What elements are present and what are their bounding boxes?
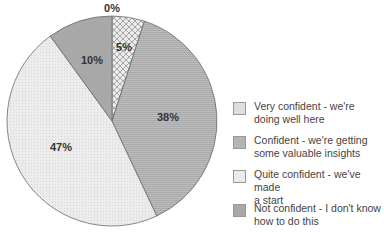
label-confident: 38%: [157, 111, 179, 123]
label-very-confident: 5%: [116, 41, 132, 53]
legend-item-quite-confident: Quite confident - we've madea start: [233, 168, 383, 194]
swatch-dots-icon: [233, 170, 246, 183]
legend-label: some valuable insights: [254, 147, 360, 159]
label-zero: 0%: [104, 2, 120, 14]
legend: Very confident - we'redoing well here Co…: [233, 100, 383, 232]
swatch-hlines-icon: [233, 136, 246, 149]
label-not-confident: 10%: [81, 54, 103, 66]
legend-label: doing well here: [254, 113, 325, 125]
label-quite-confident: 47%: [50, 141, 72, 153]
swatch-crosshatch-icon: [233, 102, 246, 115]
legend-item-confident: Confident - we're gettingsome valuable i…: [233, 134, 383, 160]
legend-label: Not confident - I don't know: [254, 202, 381, 214]
legend-item-not-confident: Not confident - I don't knowhow to do th…: [233, 202, 383, 228]
legend-label: Quite confident - we've made: [254, 168, 360, 193]
legend-item-very-confident: Very confident - we'redoing well here: [233, 100, 383, 126]
swatch-diagonal-icon: [233, 204, 246, 217]
legend-label: Confident - we're getting: [254, 134, 368, 146]
legend-label: Very confident - we're: [254, 100, 355, 112]
legend-label: how to do this: [254, 215, 319, 227]
pie-chart: 0% 5% 38% 47% 10%: [0, 0, 232, 232]
